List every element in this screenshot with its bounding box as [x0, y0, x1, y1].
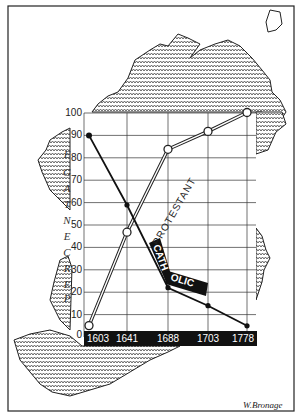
protestant-point-1688 [164, 145, 172, 153]
svg-text:0: 0 [76, 329, 82, 340]
signature: W.Bronage [243, 400, 283, 410]
svg-text:1703: 1703 [197, 333, 220, 344]
svg-text:20: 20 [71, 286, 83, 297]
svg-text:G: G [63, 166, 71, 178]
svg-text:50: 50 [71, 219, 83, 230]
chart-figure: 100 90 80 70 60 50 40 30 20 10 0 P E R C… [0, 0, 303, 420]
protestant-point-1703 [204, 127, 212, 135]
svg-text:E: E [63, 230, 71, 242]
svg-text:E: E [63, 148, 71, 160]
svg-text:P: P [63, 292, 71, 304]
svg-text:R: R [63, 262, 71, 274]
svg-text:100: 100 [65, 107, 82, 118]
svg-text:N: N [62, 214, 71, 226]
svg-text:1641: 1641 [116, 333, 139, 344]
svg-text:10: 10 [71, 309, 83, 320]
catholic-point-1603 [86, 132, 92, 138]
svg-text:70: 70 [71, 174, 83, 185]
protestant-point-1603 [85, 322, 93, 330]
catholic-point-1641 [124, 202, 129, 207]
svg-text:1688: 1688 [157, 333, 180, 344]
catholic-point-1688 [165, 285, 170, 290]
svg-text:1778: 1778 [232, 333, 255, 344]
svg-text:40: 40 [71, 241, 83, 252]
svg-text:T: T [64, 198, 71, 210]
svg-text:60: 60 [71, 197, 83, 208]
svg-text:A: A [63, 182, 71, 194]
svg-text:1603: 1603 [87, 333, 110, 344]
svg-text:30: 30 [71, 264, 83, 275]
svg-text:E: E [63, 278, 71, 290]
svg-text:80: 80 [71, 152, 83, 163]
protestant-point-1641 [123, 228, 131, 236]
protestant-point-1778 [243, 109, 251, 117]
svg-text:C: C [63, 246, 71, 258]
catholic-point-1778 [244, 323, 249, 328]
svg-text:90: 90 [71, 129, 83, 140]
catholic-point-1703 [205, 303, 210, 308]
